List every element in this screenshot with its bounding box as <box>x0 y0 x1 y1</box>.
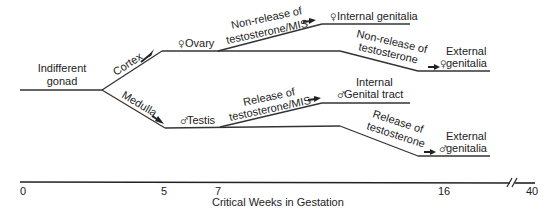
male-external-label-1: External <box>446 130 486 142</box>
axis-title: Critical Weeks in Gestation <box>212 196 344 208</box>
testis-label: Testis <box>187 114 216 126</box>
female-external-label-2: genitalia <box>446 57 488 69</box>
internal-genitalia-label: Internal genitalia <box>337 10 419 22</box>
tick-label: 5 <box>161 185 167 197</box>
ovary-label: Ovary <box>185 37 215 49</box>
sexual-differentiation-diagram: Indifferent gonad Cortex Medulla ♀ Ovary… <box>0 0 551 217</box>
indifferent-label-1: Indifferent <box>38 62 87 74</box>
male-internal-arrow-icon <box>314 96 321 102</box>
female-symbol-icon: ♀ <box>178 39 185 49</box>
male-external-arrow-icon <box>430 149 436 155</box>
female-symbol-icon: ♀ <box>330 12 337 22</box>
male-internal-label-2: Genital tract <box>344 88 403 100</box>
male-internal-label-1: Internal <box>356 76 393 88</box>
female-external-label-1: External <box>446 45 486 57</box>
timeline-axis-line <box>20 182 510 183</box>
male-external-label-2: genitalia <box>446 142 488 154</box>
tick-label: 40 <box>526 185 538 197</box>
testis-line <box>165 126 340 128</box>
tick-label: 0 <box>20 185 26 197</box>
female-internal-arrow-icon <box>309 18 316 24</box>
indifferent-label-2: gonad <box>47 75 78 87</box>
tick-label: 16 <box>438 185 450 197</box>
